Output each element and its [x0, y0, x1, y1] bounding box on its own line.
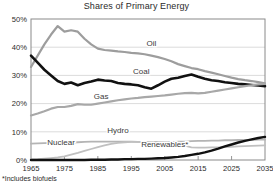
series-label-coal: Coal	[133, 67, 150, 76]
x-axis-tick-label: 1985	[89, 164, 106, 173]
y-axis-tick-label: 50%	[12, 15, 27, 24]
x-axis-tick-label: 1995	[123, 164, 140, 173]
series-labels-group: OilOilCoalCoalGasGasHydroHydroNuclearNuc…	[47, 39, 188, 149]
y-axis-tick-label: 40%	[12, 43, 27, 52]
series-label-renewables: Renewables*	[141, 140, 188, 149]
x-axis-tick-label: 1975	[56, 164, 73, 173]
series-label-gas: Gas	[94, 92, 109, 101]
y-axis-ticks-group: 0%10%20%30%40%50%	[12, 15, 27, 165]
chart-figure: Shares of Primary Energy 0%10%20%30%40%5…	[0, 0, 273, 187]
y-axis-tick-label: 20%	[12, 99, 27, 108]
series-label-hydro: Hydro	[107, 126, 129, 135]
x-axis-tick-label: 2015	[190, 164, 207, 173]
y-axis-tick-label: 10%	[12, 128, 27, 137]
chart-footnote: *Includes biofuels	[2, 175, 57, 182]
x-axis-tick-label: 2005	[156, 164, 173, 173]
x-axis-tick-label: 1965	[23, 164, 40, 173]
series-label-nuclear: Nuclear	[47, 138, 75, 147]
x-axis-tick-label: 2035	[257, 164, 273, 173]
x-axis-tick-label: 2025	[223, 164, 240, 173]
series-label-oil: Oil	[146, 39, 156, 48]
line-chart-plot: 0%10%20%30%40%50% 1965197519851995200520…	[0, 0, 273, 187]
y-axis-tick-label: 30%	[12, 71, 27, 80]
